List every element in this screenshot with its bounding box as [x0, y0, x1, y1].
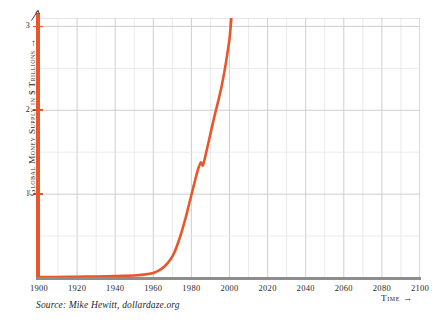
x-tick-label: 2100: [402, 283, 438, 293]
plot-area: [39, 18, 420, 278]
source-note: Source: Mike Hewitt, dollardaze.org: [36, 300, 180, 310]
x-axis-line: [36, 277, 421, 280]
x-tick-label: 1980: [173, 283, 209, 293]
x-tick-label: 2080: [364, 283, 400, 293]
x-tick-label: 2000: [212, 283, 248, 293]
x-axis-title-text: Time: [381, 293, 400, 303]
y-axis-title: Global Money Supply in $ Trillions →: [27, 17, 37, 217]
x-tick-label: 2040: [288, 283, 324, 293]
chart-figure: 123 190019201940196019802000202020402060…: [0, 0, 447, 323]
x-tick-label: 1940: [97, 283, 133, 293]
x-tick-label: 1920: [59, 283, 95, 293]
x-tick-label: 1900: [21, 283, 57, 293]
x-tick-label: 1960: [135, 283, 171, 293]
y-axis-title-text: Global Money Supply in $ Trillions: [27, 50, 37, 195]
x-axis-title-arrow: →: [400, 293, 413, 303]
y-axis-title-arrow: →: [27, 38, 37, 50]
x-tick-label: 2020: [250, 283, 286, 293]
x-axis-title: Time →: [381, 293, 413, 303]
money-supply-curve: [39, 18, 420, 278]
x-tick-label: 2060: [326, 283, 362, 293]
